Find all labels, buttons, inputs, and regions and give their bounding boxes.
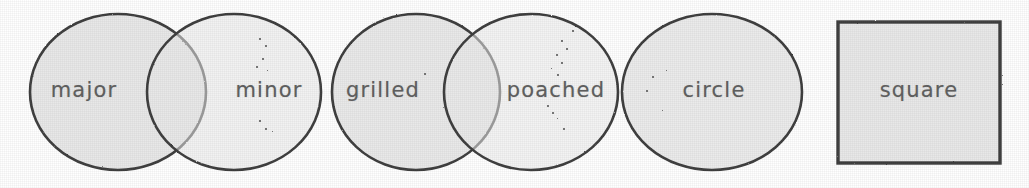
shapes-diagram-canvas: majorminorgrilledpoachedcirclesquare <box>0 0 1029 188</box>
shape-label-square: square <box>880 78 959 102</box>
shape-label-minor: minor <box>235 78 302 102</box>
shape-label-circle: circle <box>682 78 745 102</box>
shape-label-grilled: grilled <box>346 78 420 102</box>
shape-label-poached: poached <box>507 78 606 102</box>
shape-label-major: major <box>51 78 118 102</box>
